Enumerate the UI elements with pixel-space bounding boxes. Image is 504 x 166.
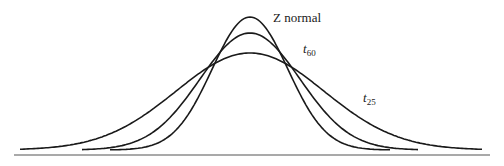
label-t60-sub: 60: [307, 48, 317, 58]
label-t25-sub: 25: [367, 97, 377, 107]
distribution-chart: Z normal t60 t25: [0, 0, 504, 166]
curve-t60: [82, 33, 418, 150]
curve-t25: [20, 53, 482, 149]
label-t60: t60: [303, 41, 316, 58]
label-t25: t25: [363, 90, 376, 107]
label-z-normal: Z normal: [273, 10, 321, 25]
curve-z-normal: [110, 17, 390, 150]
